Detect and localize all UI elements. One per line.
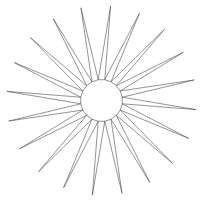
starburst-canvas (0, 0, 203, 201)
center-disc (84, 83, 120, 119)
starburst-figure (0, 0, 203, 201)
